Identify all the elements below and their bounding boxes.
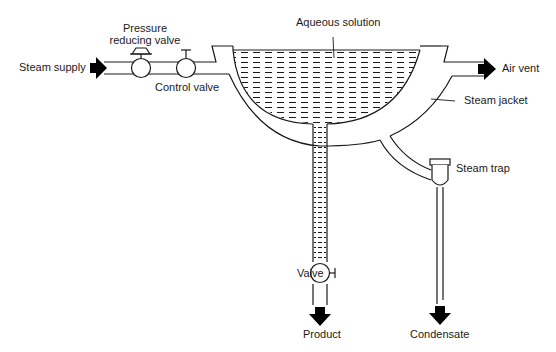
label-product: Product — [303, 328, 341, 341]
condensate-arrow-icon — [429, 306, 451, 325]
label-air-vent: Air vent — [502, 62, 539, 75]
product-arrow-icon — [309, 307, 331, 326]
pressure-reducing-valve — [130, 48, 152, 78]
label-control-valve: Control valve — [155, 81, 219, 94]
label-pressure-reducing-valve-line2: reducing valve — [100, 34, 190, 47]
air-vent-arrow-icon — [478, 58, 496, 80]
aqueous-solution-fill — [230, 51, 425, 126]
label-steam-trap: Steam trap — [456, 162, 510, 175]
steam-supply-pipe — [104, 62, 229, 74]
steam-trap — [430, 159, 450, 185]
label-steam-supply: Steam supply — [19, 61, 86, 74]
product-pipe-fill — [314, 126, 326, 261]
diagram-canvas — [0, 0, 556, 352]
evaporating-pan-diagram: Steam supply Pressure reducing valve Con… — [0, 0, 556, 352]
steam-jacket-leader — [431, 99, 455, 101]
control-valve — [177, 50, 196, 78]
steam-supply-arrow-icon — [90, 57, 107, 79]
label-condensate: Condensate — [410, 328, 469, 341]
label-valve: Valve — [297, 267, 324, 280]
label-aqueous-solution: Aqueous solution — [296, 16, 380, 29]
label-steam-jacket: Steam jacket — [464, 94, 528, 107]
